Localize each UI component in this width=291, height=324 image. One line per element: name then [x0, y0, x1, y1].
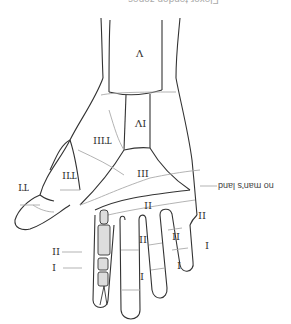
hand-outline-drawing: [0, 0, 291, 324]
zone-tiii-label: TIII: [93, 135, 112, 145]
little-zone-ii-label: II: [198, 210, 206, 220]
zone-tii-label: TII: [62, 170, 77, 180]
zone-iv-label: IV: [135, 118, 146, 128]
little-zone-i-label: I: [205, 240, 209, 250]
zone-v-label: V: [136, 48, 143, 58]
figure-title-cropped: Flexor tendon zones: [128, 0, 219, 5]
index-zone-i-label: I: [52, 262, 56, 272]
index-zone-ii-label: II: [52, 246, 60, 256]
middle-palm-zone-ii-label: II: [144, 200, 152, 210]
ring-zone-ii-label: II: [172, 231, 180, 241]
middle-zone-ii-label: II: [139, 234, 147, 244]
zone-iii-label: III: [137, 168, 149, 178]
zone-ti-label: TI: [18, 182, 29, 192]
no-mans-land-callout: no man's land: [218, 181, 274, 190]
hand-zone-diagram: V IV III TIII TII TI II I II II I II I I…: [0, 0, 291, 324]
middle-zone-i-label: I: [140, 271, 144, 281]
ring-zone-i-label: I: [177, 260, 181, 270]
